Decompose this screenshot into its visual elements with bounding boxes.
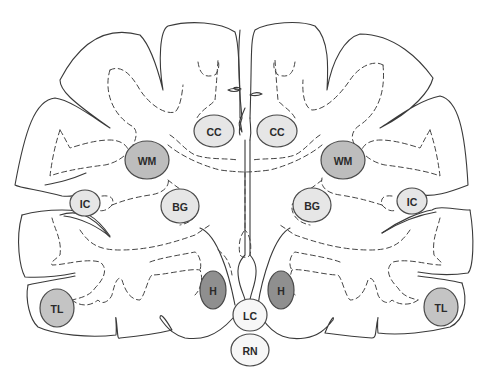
- region-cc-left: CC: [194, 115, 234, 147]
- rn-label: RN: [242, 345, 257, 357]
- brain-coronal-diagram: CC CC WM WM IC IC BG BG H H LC RN: [0, 0, 490, 376]
- region-rn: RN: [231, 334, 269, 366]
- ic-right-label: IC: [407, 196, 418, 208]
- region-wm-right: WM: [321, 141, 365, 179]
- region-wm-left: WM: [125, 141, 169, 179]
- region-bg-left: BG: [161, 189, 199, 223]
- h-left-label: H: [209, 285, 217, 297]
- region-tl-right: TL: [424, 288, 458, 326]
- region-ic-right: IC: [397, 188, 427, 214]
- region-ic-left: IC: [70, 190, 100, 216]
- white-matter-boundaries: [50, 60, 441, 305]
- wm-right-label: WM: [334, 155, 353, 167]
- lc-label: LC: [243, 310, 257, 322]
- region-h-right: H: [268, 271, 294, 309]
- region-bg-right: BG: [293, 188, 331, 222]
- tl-right-label: TL: [435, 302, 448, 314]
- region-tl-left: TL: [40, 289, 74, 327]
- cc-left-label: CC: [206, 126, 222, 138]
- bg-left-label: BG: [172, 201, 188, 213]
- region-lc: LC: [233, 299, 267, 331]
- region-cc-right: CC: [257, 115, 297, 147]
- h-right-label: H: [277, 285, 285, 297]
- cc-right-label: CC: [269, 126, 285, 138]
- ic-left-label: IC: [80, 198, 91, 210]
- bg-right-label: BG: [304, 200, 320, 212]
- wm-left-label: WM: [138, 155, 157, 167]
- region-h-left: H: [200, 271, 226, 309]
- tl-left-label: TL: [51, 303, 64, 315]
